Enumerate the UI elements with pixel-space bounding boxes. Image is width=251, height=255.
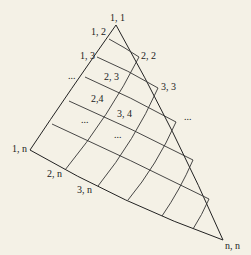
right-edge xyxy=(116,25,223,240)
node-label-ldotsM1: ... xyxy=(81,114,89,125)
column-grid-lines xyxy=(65,57,209,229)
node-label-l22: 2, 2 xyxy=(141,50,156,61)
node-label-l2n: 2, n xyxy=(47,168,62,179)
node-label-l24: 2,4 xyxy=(91,93,104,104)
node-label-l11: 1, 1 xyxy=(110,12,125,23)
node-label-l3n: 3, n xyxy=(77,184,92,195)
node-label-l33: 3, 3 xyxy=(161,81,176,92)
col-line-5 xyxy=(162,160,193,216)
node-label-l34: 3, 4 xyxy=(117,108,132,119)
node-label-ldotsL: ... xyxy=(68,70,76,81)
triangle-edges xyxy=(30,25,223,240)
row-line-2 xyxy=(109,39,139,57)
node-label-ldotsM2: ... xyxy=(114,129,122,140)
node-label-l12: 1, 2 xyxy=(91,26,106,37)
mesh-svg: 1, 11, 21, 3...2, 22, 33, 32,43, 4......… xyxy=(0,0,251,255)
col-line-6 xyxy=(193,199,209,229)
bottom-edge xyxy=(30,150,223,240)
col-line-4 xyxy=(128,122,176,200)
row-line-6 xyxy=(52,124,209,199)
triangular-mesh-diagram: 1, 11, 21, 3...2, 22, 33, 32,43, 4......… xyxy=(0,0,251,255)
node-label-lnn: n, n xyxy=(225,240,240,251)
node-labels: 1, 11, 21, 3...2, 22, 33, 32,43, 4......… xyxy=(12,12,240,251)
node-label-l1n: 1, n xyxy=(12,143,27,154)
node-label-ldotsR: ... xyxy=(184,111,192,122)
node-label-l13: 1, 3 xyxy=(80,50,95,61)
left-edge xyxy=(30,25,116,150)
node-label-l23: 2, 3 xyxy=(104,71,119,82)
